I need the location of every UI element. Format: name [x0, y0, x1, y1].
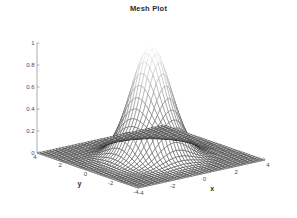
z-tick-label: 0.6 [26, 84, 35, 90]
z-tick-label: 0.8 [26, 62, 35, 68]
x-tick-label: 4 [266, 162, 270, 168]
x-tick-label: 0 [203, 176, 207, 182]
x-tick-label: 2 [235, 169, 239, 175]
mesh-plot-canvas: 00.20.40.60.81-4-2024-4-2024yx [0, 0, 297, 218]
y-tick-label: 0 [84, 171, 88, 177]
z-tick-label: 1 [31, 40, 35, 46]
y-axis-label: y [77, 180, 81, 188]
z-tick-label: 0.4 [26, 106, 35, 112]
y-tick-label: -2 [108, 180, 114, 186]
x-axis-label: x [210, 185, 214, 192]
z-tick-label: 0.2 [26, 128, 35, 134]
mesh-surface [37, 47, 265, 189]
mesh-plot-figure: Mesh Plot 00.20.40.60.81-4-2024-4-2024yx [0, 0, 297, 218]
x-tick-label: -2 [170, 183, 176, 189]
x-tick-label: -4 [138, 190, 144, 196]
y-tick-label: 2 [59, 162, 63, 168]
y-tick-label: 4 [33, 154, 37, 160]
